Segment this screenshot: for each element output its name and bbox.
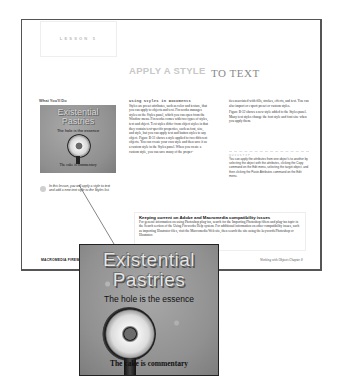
footer-chapter: Working with Objects Chapter 8: [260, 258, 303, 262]
sidebar-heading: What You'll Do: [39, 98, 67, 103]
quicktip-body: You can apply the attributes from one ob…: [229, 157, 309, 178]
book-page: LESSON 5 APPLY A STYLE TO TEXT What You'…: [21, 19, 322, 271]
magnified-footer: The cake is commentary: [80, 359, 218, 368]
body-paragraph: Styles are preset attributes, such as co…: [129, 104, 209, 155]
page-title-part2: TO TEXT: [211, 67, 260, 79]
donut-graphic: [67, 134, 91, 158]
magnified-thumbnail-image: Existential Pastries The hole is the ess…: [79, 244, 219, 376]
tip-body: For general information on using Photosh…: [139, 220, 301, 238]
magnified-subtitle: The hole is the essence: [80, 294, 218, 304]
body-paragraph: ties associated with fills, strokes, eff…: [229, 99, 311, 108]
magnified-title-line1: Existential: [80, 249, 218, 271]
thumbnail-subtitle: The hole is the essence: [40, 128, 116, 133]
donut-graphic: [102, 307, 156, 361]
lesson-thumbnail-image: Existential Pastries The hole is the ess…: [40, 105, 116, 173]
lesson-label: LESSON 5: [41, 36, 116, 41]
quicktip-note: QUICKTIP You can apply the attributes fr…: [229, 151, 309, 178]
lesson-tab: LESSON 5: [40, 21, 117, 57]
thumbnail-footer: The cake is commentary: [40, 163, 116, 167]
magnified-title-line2: Pastries: [80, 269, 218, 291]
body-paragraph: Figure B-32 shows a new style added to t…: [229, 110, 311, 124]
page-title-part1: APPLY A STYLE: [129, 65, 206, 76]
thumbnail-title-line2: Pastries: [40, 116, 116, 126]
sidebar-caption: In this lesson, you will apply a style t…: [49, 184, 115, 193]
caption-bullet-icon: [40, 186, 46, 192]
body-column-1: Using Styles in Documents Styles are pre…: [129, 99, 209, 156]
body-column-2: ties associated with fills, strokes, eff…: [229, 99, 311, 126]
